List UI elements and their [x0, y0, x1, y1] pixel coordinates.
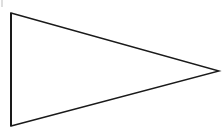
triangle-figure-svg — [0, 0, 223, 134]
figure-background — [0, 0, 223, 134]
figure-canvas — [0, 0, 223, 134]
corner-crop-sliver — [1, 0, 3, 7]
